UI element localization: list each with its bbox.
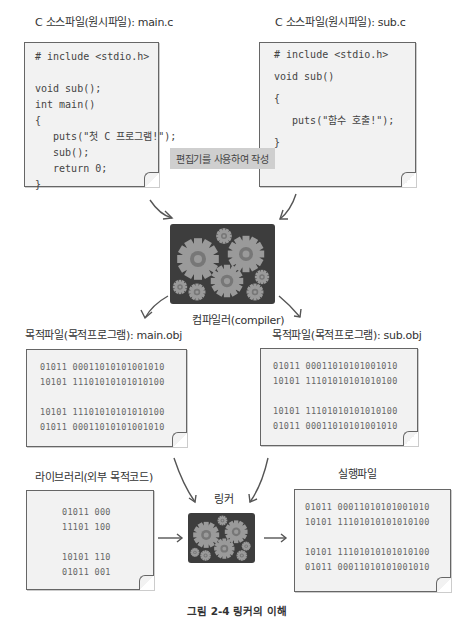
flow-arrows: [0, 0, 470, 633]
